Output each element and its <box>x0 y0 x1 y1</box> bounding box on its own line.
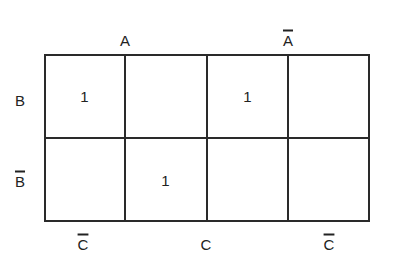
cell-r0-c1 <box>125 54 206 138</box>
cell-r1-c3 <box>288 138 369 222</box>
cell-r1-c2 <box>207 138 288 222</box>
label-a-complement: A <box>283 33 293 48</box>
cell-r0-c3 <box>288 54 369 138</box>
label-c: C <box>201 237 212 252</box>
label-a: A <box>120 33 130 48</box>
cell-r1-c1: 1 <box>125 138 206 222</box>
cell-r1-c0 <box>44 138 125 222</box>
label-c-complement-left: C <box>78 237 89 252</box>
cell-r0-c0: 1 <box>44 54 125 138</box>
cell-r0-c2: 1 <box>207 54 288 138</box>
kmap-grid: 1 1 1 <box>44 54 370 222</box>
label-c-complement-right: C <box>324 237 335 252</box>
label-b-complement: B <box>15 174 25 189</box>
label-b: B <box>15 93 25 108</box>
